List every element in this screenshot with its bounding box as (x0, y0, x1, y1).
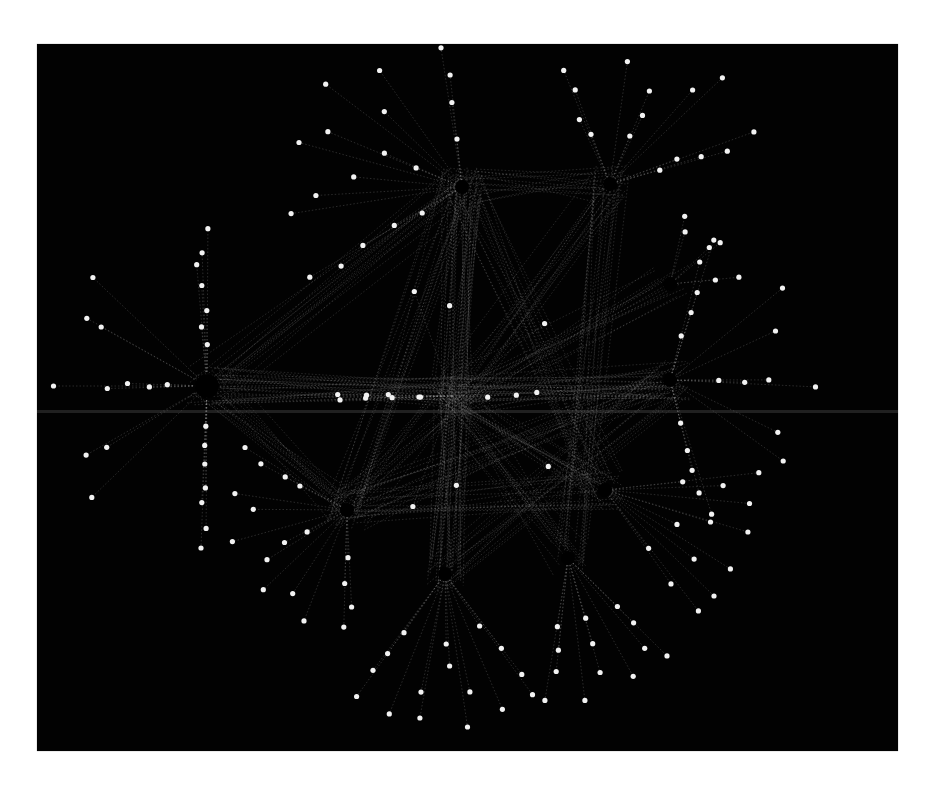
hub-link-edge (213, 383, 330, 521)
hub-link-edge (480, 169, 593, 174)
leaf-edge (579, 120, 610, 184)
leaf-edge (568, 558, 645, 648)
leaf-edge (605, 490, 750, 504)
hub-link-edge (205, 204, 447, 390)
hub-bottom-right-node (561, 551, 575, 565)
leaf-node (454, 483, 459, 488)
leaf-node (556, 648, 561, 653)
hub-link-edge (329, 385, 666, 501)
leaf-node (546, 464, 551, 469)
leaf-node (689, 310, 694, 315)
leaf-node (200, 250, 205, 255)
leaf-node (530, 692, 535, 697)
leaf-node (283, 474, 288, 479)
leaf-edge (610, 78, 722, 184)
leaf-node (230, 539, 235, 544)
hub-link-edge (449, 268, 653, 414)
hub-link-edge (580, 171, 621, 565)
leaf-edge (107, 386, 207, 389)
leaf-node (105, 386, 110, 391)
edge-layer (54, 48, 816, 727)
leaf-edge (568, 558, 633, 676)
leaf-node (382, 109, 387, 114)
hub-link-edge (432, 397, 585, 493)
leaf-edge (605, 490, 698, 611)
leaf-node (625, 59, 630, 64)
leaf-node (657, 168, 662, 173)
hub-link-edge (458, 293, 686, 409)
hub-link-edge (454, 179, 609, 406)
hub-link-edge (190, 176, 467, 366)
leaf-node (418, 395, 423, 400)
leaf-node (282, 540, 287, 545)
leaf-node (387, 711, 392, 716)
leaf-edge (670, 380, 712, 514)
leaf-node (289, 211, 294, 216)
leaf-node (392, 223, 397, 228)
leaf-edge (670, 248, 709, 285)
hub-link-edge (200, 176, 466, 387)
hub-left-node (195, 374, 219, 398)
leaf-node (418, 690, 423, 695)
hub-link-edge (361, 490, 614, 497)
hub-link-edge (468, 297, 676, 410)
leaf-node (561, 68, 566, 73)
leaf-node (412, 289, 417, 294)
hub-link-edge (195, 395, 339, 500)
hub-link-edge (452, 179, 611, 385)
leaf-node (690, 87, 695, 92)
leaf-edge (605, 490, 671, 584)
leaf-node (646, 546, 651, 551)
leaf-node (697, 490, 702, 495)
leaf-node (296, 140, 301, 145)
leaf-node (202, 443, 207, 448)
leaf-node (258, 461, 263, 466)
leaf-edge (568, 558, 600, 673)
leaf-node (745, 529, 750, 534)
leaf-edge (207, 229, 208, 386)
hub-link-edge (335, 181, 456, 516)
leaf-edge (564, 70, 610, 184)
hub-link-edge (464, 186, 472, 379)
hub-link-edge (358, 169, 477, 503)
leaf-node (674, 157, 679, 162)
hub-link-edge (227, 173, 467, 375)
leaf-edge (610, 151, 727, 184)
leaf-node (499, 646, 504, 651)
leaf-node (165, 382, 170, 387)
leaf-node (577, 117, 582, 122)
leaf-node (695, 290, 700, 295)
leaf-node (500, 707, 505, 712)
leaf-edge (420, 574, 445, 718)
leaf-edge (285, 510, 348, 543)
hub-link-edge (352, 183, 470, 529)
hub-link-edge (217, 177, 470, 386)
leaf-node (354, 694, 359, 699)
hub-link-edge (470, 378, 576, 561)
hub-link-edge (216, 402, 329, 496)
leaf-node (325, 129, 330, 134)
leaf-node (410, 504, 415, 509)
leaf-edge (556, 558, 568, 672)
hub-right-node (663, 373, 677, 387)
leaf-edge (245, 448, 347, 511)
leaf-node (449, 100, 454, 105)
leaf-node (709, 512, 714, 517)
leaf-node (467, 689, 472, 694)
leaf-node (747, 501, 752, 506)
leaf-node (642, 646, 647, 651)
leaf-node (51, 383, 56, 388)
leaf-node (448, 72, 453, 77)
leaf-edge (304, 510, 347, 621)
leaf-edge (575, 90, 610, 184)
leaf-node (631, 620, 636, 625)
leaf-node (401, 630, 406, 635)
leaf-node (84, 316, 89, 321)
hub-link-edge (331, 169, 444, 515)
leaf-node (720, 75, 725, 80)
hub-link-edge (327, 395, 434, 511)
leaf-node (590, 641, 595, 646)
leaf-node (668, 581, 673, 586)
leaf-edge (384, 112, 462, 187)
hub-link-edge (459, 405, 553, 575)
